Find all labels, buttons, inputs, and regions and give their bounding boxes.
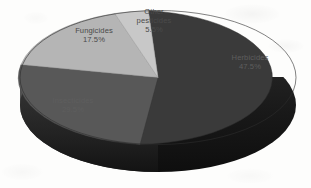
slice-label-insecticides-value: 29.5% (36, 106, 110, 115)
slice-label-fungicides-value: 17.5% (58, 36, 130, 45)
slice-label-fungicides: Fungicides 17.5% (58, 27, 130, 45)
slice-label-insecticides: Insecticides 29.5% (36, 97, 110, 115)
slice-label-other-pesticides: Other pesticides 5.5% (126, 8, 182, 35)
pie-chart-figure: Herbicides 47.5% Insecticides 29.5% Fung… (0, 0, 311, 188)
slice-label-other-pesticides-value: 5.5% (126, 26, 182, 35)
slice-label-herbicides-value: 47.5% (222, 63, 278, 72)
slice-label-herbicides: Herbicides 47.5% (222, 54, 278, 72)
